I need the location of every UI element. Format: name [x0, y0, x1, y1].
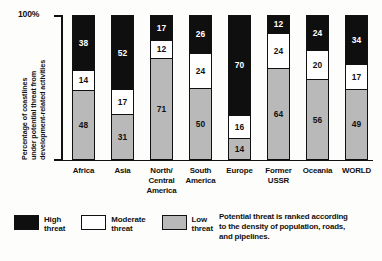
y-axis-title-line-1: Percentage of coastlines	[20, 18, 29, 160]
stacked-bar: 262450	[189, 15, 212, 160]
caption-line-2: to the density of population, roads,	[219, 222, 379, 232]
legend-swatch-low-icon	[162, 215, 187, 230]
bar-segment: 17	[112, 89, 133, 115]
bar-column: 171271	[142, 15, 181, 160]
stacked-bar: 701614	[228, 15, 251, 160]
bar-segment: 24	[190, 53, 211, 89]
x-axis-label: FormerUSSR	[259, 166, 298, 197]
y-axis-title-line-2: under potential threat from	[29, 18, 38, 160]
y-axis-title: Percentage of coastlines under potential…	[20, 18, 60, 160]
x-axis-label-line: USSR	[259, 176, 298, 186]
chart-caption: Potential threat is ranked according to …	[219, 212, 379, 243]
bar-column: 242056	[298, 15, 337, 160]
bar-segment: 24	[268, 33, 289, 69]
bar-segment: 16	[229, 115, 250, 140]
bar-segment: 52	[112, 16, 133, 89]
x-axis-label: SouthAmerica	[181, 166, 220, 197]
bars-plot-area: 3814485217311712712624507016141224642420…	[64, 15, 376, 160]
x-axis-label: Asia	[103, 166, 142, 197]
x-axis-label-line: America	[142, 186, 181, 196]
legend-label: Highthreat	[44, 215, 65, 234]
bar-column: 262450	[181, 15, 220, 160]
legend-label-line-2: threat	[44, 224, 65, 233]
legend-item[interactable]: Lowthreat	[162, 215, 213, 234]
bar-column: 341749	[337, 15, 376, 160]
x-axis-label-line: Africa	[64, 166, 103, 176]
x-axis-labels: AfricaAsiaNorth/CentralAmericaSouthAmeri…	[64, 166, 376, 197]
bar-column: 701614	[220, 15, 259, 160]
bar-segment: 64	[268, 69, 289, 159]
stacked-bar: 242056	[306, 15, 329, 160]
legend-label-line-2: threat	[111, 224, 145, 233]
legend-swatch-moderate-icon	[81, 215, 106, 230]
stacked-bar: 381448	[72, 15, 95, 160]
y-axis-tick-label-100: 100%	[18, 9, 39, 19]
bar-column: 521731	[103, 15, 142, 160]
chart-legend: HighthreatModeratethreatLowthreat	[14, 215, 229, 234]
legend-item[interactable]: Highthreat	[14, 215, 65, 234]
stacked-bar: 171271	[150, 15, 173, 160]
bar-column: 122464	[259, 15, 298, 160]
bar-segment: 48	[73, 91, 94, 159]
stacked-bar: 122464	[267, 15, 290, 160]
bar-segment: 34	[346, 16, 367, 64]
x-axis-label-line: WORLD	[337, 166, 376, 176]
bar-segment: 12	[268, 16, 289, 33]
bar-segment: 56	[307, 80, 328, 159]
stacked-bar: 521731	[111, 15, 134, 160]
bar-segment: 12	[151, 40, 172, 59]
bar-segment: 70	[229, 16, 250, 115]
x-axis-label-line: Asia	[103, 166, 142, 176]
legend-item[interactable]: Moderatethreat	[81, 215, 145, 234]
x-axis-baseline	[61, 160, 373, 161]
x-axis-label-line: America	[181, 176, 220, 186]
x-axis-label-line: Oceania	[298, 166, 337, 176]
legend-label: Moderatethreat	[111, 215, 145, 234]
legend-label: Lowthreat	[192, 215, 213, 234]
bar-segment: 24	[307, 16, 328, 50]
bar-segment: 31	[112, 115, 133, 159]
x-axis-label-line: North/	[142, 166, 181, 176]
x-axis-label: WORLD	[337, 166, 376, 197]
x-axis-label: North/CentralAmerica	[142, 166, 181, 197]
caption-line-3: and pipelines.	[219, 232, 379, 242]
bar-segment: 14	[229, 139, 250, 159]
legend-label-line-1: Low	[192, 215, 213, 224]
x-axis-label-line: Europe	[220, 166, 259, 176]
chart-container: Percentage of coastlines under potential…	[0, 0, 382, 261]
stacked-bar: 341749	[345, 15, 368, 160]
bar-segment: 14	[73, 70, 94, 92]
legend-label-line-1: Moderate	[111, 215, 145, 224]
bar-segment: 26	[190, 16, 211, 53]
bar-segment: 17	[151, 16, 172, 40]
bar-segment: 38	[73, 16, 94, 70]
bar-segment: 49	[346, 90, 367, 159]
x-axis-label-line: South	[181, 166, 220, 176]
x-axis-label: Oceania	[298, 166, 337, 197]
legend-label-line-1: High	[44, 215, 65, 224]
bar-segment: 50	[190, 89, 211, 160]
y-axis-line	[61, 15, 63, 161]
caption-line-1: Potential threat is ranked according	[219, 212, 379, 222]
bar-segment: 17	[346, 64, 367, 90]
y-axis-title-line-3: development-related activities	[38, 18, 47, 160]
legend-label-line-2: threat	[192, 224, 213, 233]
x-axis-label: Africa	[64, 166, 103, 197]
legend-swatch-high-icon	[14, 215, 39, 230]
bar-column: 381448	[64, 15, 103, 160]
x-axis-label-line: Central	[142, 176, 181, 186]
bar-segment: 71	[151, 59, 172, 159]
bar-segment: 20	[307, 50, 328, 80]
x-axis-label-line: Former	[259, 166, 298, 176]
x-axis-label: Europe	[220, 166, 259, 197]
